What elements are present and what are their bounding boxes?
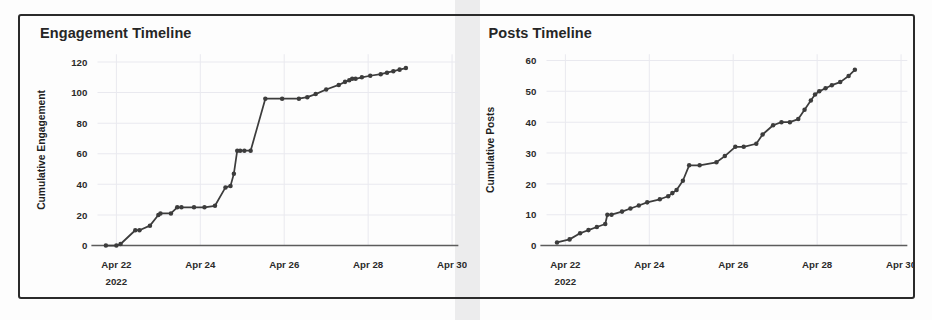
figure-border bbox=[18, 14, 915, 299]
